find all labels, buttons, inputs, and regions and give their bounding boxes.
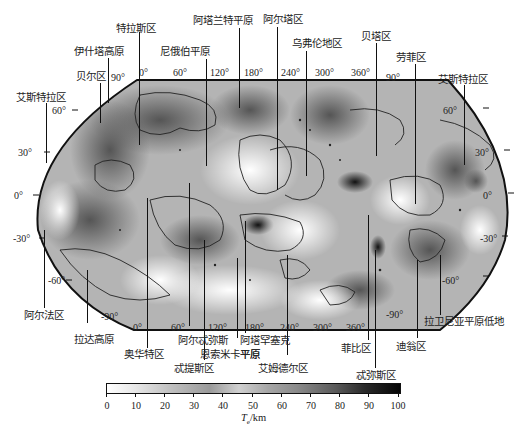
colorbar-tick xyxy=(135,393,136,397)
region-label-eistla-right: 艾斯特拉区 xyxy=(438,73,488,85)
leader-eistla-left xyxy=(46,103,47,163)
region-label-atahensik: 阿塔罕塞克 xyxy=(240,334,290,346)
region-label-alpha: 阿尔法区 xyxy=(24,309,64,321)
leader-beta xyxy=(376,43,377,156)
colorbar-label-80: 80 xyxy=(335,400,345,411)
leader-dione xyxy=(417,260,418,338)
lat-tick-left-minus90: -90° xyxy=(101,311,118,322)
lat-tick-left-0: 0° xyxy=(14,190,23,201)
leader-alta xyxy=(277,27,278,190)
colorbar-tick xyxy=(164,393,165,397)
lon-tick-top-120: 120° xyxy=(210,67,229,78)
region-label-phoebe: 菲比区 xyxy=(341,342,371,354)
lon-tick-bottom-360: 360° xyxy=(346,322,365,333)
region-label-beta: 贝塔区 xyxy=(361,30,391,42)
leader-eistla-right xyxy=(464,85,465,165)
region-label-ulfrun: 乌弗伦地区 xyxy=(292,37,342,49)
region-label-ovda: 奥华特区 xyxy=(124,348,164,360)
region-label-niobe: 尼俄伯平原 xyxy=(160,45,210,57)
lat-tick-right-60: 60° xyxy=(443,105,457,116)
leader-laufey xyxy=(415,64,416,204)
region-label-laufey: 劳菲区 xyxy=(396,51,426,63)
region-label-atalanta: 阿塔兰特平原 xyxy=(193,14,253,26)
colorbar-label-20: 20 xyxy=(160,400,170,411)
region-label-dione: 迪翁区 xyxy=(396,340,426,352)
region-label-eistla-left: 艾斯特拉区 xyxy=(16,91,66,103)
lon-tick-bottom-120: 120° xyxy=(208,322,227,333)
region-label-alta: 阿尔塔区 xyxy=(263,13,303,25)
region-label-imdr: 艾姆德尔区 xyxy=(258,362,308,374)
leader-ovda xyxy=(147,198,148,348)
leader-bell xyxy=(100,83,101,123)
colorbar-label-40: 40 xyxy=(218,400,228,411)
colorbar-label-90: 90 xyxy=(364,400,374,411)
colorbar-label-70: 70 xyxy=(306,400,316,411)
region-label-themis: 忒弥斯区 xyxy=(356,369,396,381)
lon-tick-top-60: 60° xyxy=(173,67,187,78)
leader-ishtar xyxy=(108,58,109,103)
lon-tick-bottom-300: 300° xyxy=(313,322,332,333)
colorbar-label-30: 30 xyxy=(189,400,199,411)
leader-themis xyxy=(375,250,376,368)
lat-tick-left-minus60: -60° xyxy=(48,275,65,286)
lon-tick-bottom-180: 180° xyxy=(245,322,264,333)
lat-tick-right-minus60: -60° xyxy=(442,275,459,286)
lon-tick-top-300: 300° xyxy=(315,67,334,78)
lat-tick-right-90: 90° xyxy=(386,72,400,83)
leader-ulfrun xyxy=(306,51,307,176)
leader-phoebe xyxy=(368,215,369,340)
leader-alpha xyxy=(44,230,45,308)
lat-tick-right-minus90: -90° xyxy=(386,309,403,320)
region-label-thetis: 忒提斯区 xyxy=(174,362,214,374)
leader-atahensik xyxy=(245,221,246,333)
colorbar-label-0: 0 xyxy=(105,400,110,411)
colorbar-tick xyxy=(368,393,369,397)
leader-artemis xyxy=(189,183,190,326)
leader-lavinia xyxy=(440,255,441,315)
colorbar-tick xyxy=(222,393,223,397)
lon-tick-top-0: 0° xyxy=(139,67,148,78)
lon-tick-top-360: 360° xyxy=(351,67,370,78)
leader-lada xyxy=(87,270,88,323)
leader-tellus xyxy=(139,32,140,145)
colorbar-tick xyxy=(281,393,282,397)
lat-tick-right-0: 0° xyxy=(483,190,492,201)
lon-tick-bottom-60: 60° xyxy=(171,322,185,333)
region-label-lavinia: 拉卫尼亚平原低地 xyxy=(424,315,504,327)
colorbar-title: Te/km xyxy=(241,412,266,426)
colorbar xyxy=(106,383,401,394)
colorbar-label-10: 10 xyxy=(131,400,141,411)
colorbar-tick xyxy=(310,393,311,397)
leader-atalanta xyxy=(239,28,240,108)
colorbar-label-100: 100 xyxy=(391,400,406,411)
colorbar-tick xyxy=(106,393,107,397)
colorbar-tick xyxy=(398,393,399,397)
lat-tick-left-60: 60° xyxy=(52,105,66,116)
leader-aino xyxy=(237,258,238,338)
region-label-tellus: 特拉斯区 xyxy=(116,22,156,34)
region-label-artemis: 阿尔忒弥斯 xyxy=(178,334,228,346)
lat-tick-left-30: 30° xyxy=(18,147,32,158)
region-label-lada: 拉达高原 xyxy=(74,333,114,345)
colorbar-tick xyxy=(339,393,340,397)
leader-niobe xyxy=(206,59,207,166)
colorbar-tick xyxy=(193,393,194,397)
lon-tick-bottom-0: 0° xyxy=(133,322,142,333)
colorbar-tick xyxy=(252,393,253,397)
lat-tick-right-30: 30° xyxy=(475,147,489,158)
lon-tick-top-180: 180° xyxy=(244,67,263,78)
lat-tick-right-minus30: -30° xyxy=(480,233,497,244)
region-label-ishtar: 伊什塔高原 xyxy=(74,45,124,57)
lon-tick-top-240: 240° xyxy=(281,67,300,78)
colorbar-label-50: 50 xyxy=(248,400,258,411)
colorbar-label-60: 60 xyxy=(277,400,287,411)
lon-tick-bottom-240: 240° xyxy=(280,322,299,333)
lat-tick-left-90: 90° xyxy=(111,72,125,83)
lat-tick-left-minus30: -30° xyxy=(13,233,30,244)
region-label-bell: 贝尔区 xyxy=(76,70,106,82)
region-label-atahensik-2: 平原 xyxy=(240,348,260,360)
